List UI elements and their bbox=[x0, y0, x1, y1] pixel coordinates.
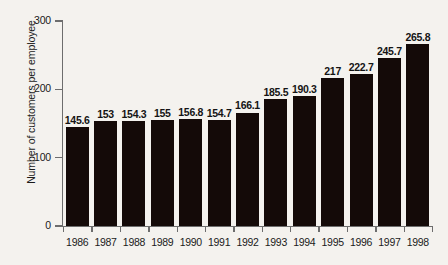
x-tick bbox=[91, 227, 92, 232]
bar-1991 bbox=[208, 120, 231, 226]
y-axis-title: Number of customers per employee bbox=[25, 0, 37, 210]
plot-area: 145.6153154.3155156.8154.7166.1185.5190.… bbox=[63, 21, 432, 226]
bar-1993 bbox=[264, 99, 287, 226]
y-tick-label: 300 bbox=[11, 14, 51, 26]
bar-1989 bbox=[151, 120, 174, 226]
bar-1997 bbox=[378, 58, 401, 226]
bar-1986 bbox=[66, 127, 89, 226]
x-tick bbox=[120, 227, 121, 232]
x-tick bbox=[233, 227, 234, 232]
bar-1987 bbox=[94, 121, 117, 226]
x-tick bbox=[290, 227, 291, 232]
x-tick bbox=[148, 227, 149, 232]
bar-value-label: 245.7 bbox=[367, 45, 411, 57]
bar-value-label: 190.3 bbox=[282, 83, 326, 95]
y-tick-label: 100 bbox=[11, 151, 51, 163]
bar-value-label: 166.1 bbox=[226, 99, 270, 111]
y-tick-label: 0 bbox=[11, 219, 51, 231]
x-tick bbox=[404, 227, 405, 232]
x-tick-label-1998: 1998 bbox=[398, 236, 438, 248]
bar-value-label: 265.8 bbox=[396, 31, 440, 43]
bar-chart: Number of customers per employee 0100200… bbox=[0, 0, 448, 265]
y-tick-100 bbox=[55, 157, 62, 158]
bar-1998 bbox=[406, 44, 429, 226]
x-tick bbox=[432, 227, 433, 232]
bar-1996 bbox=[350, 74, 373, 226]
bar-1992 bbox=[236, 113, 259, 227]
bar-1995 bbox=[321, 78, 344, 226]
y-tick-200 bbox=[55, 89, 62, 90]
x-tick bbox=[63, 227, 64, 232]
bar-value-label: 222.7 bbox=[339, 61, 383, 73]
x-tick bbox=[347, 227, 348, 232]
x-tick bbox=[177, 227, 178, 232]
x-tick bbox=[205, 227, 206, 232]
x-tick bbox=[262, 227, 263, 232]
x-tick bbox=[375, 227, 376, 232]
bar-1988 bbox=[122, 121, 145, 226]
y-tick-0 bbox=[55, 225, 62, 226]
bar-1994 bbox=[293, 96, 316, 226]
x-tick bbox=[318, 227, 319, 232]
x-axis-line bbox=[62, 226, 433, 227]
y-tick-label: 200 bbox=[11, 82, 51, 94]
y-tick-300 bbox=[55, 20, 62, 21]
bar-1990 bbox=[179, 119, 202, 226]
